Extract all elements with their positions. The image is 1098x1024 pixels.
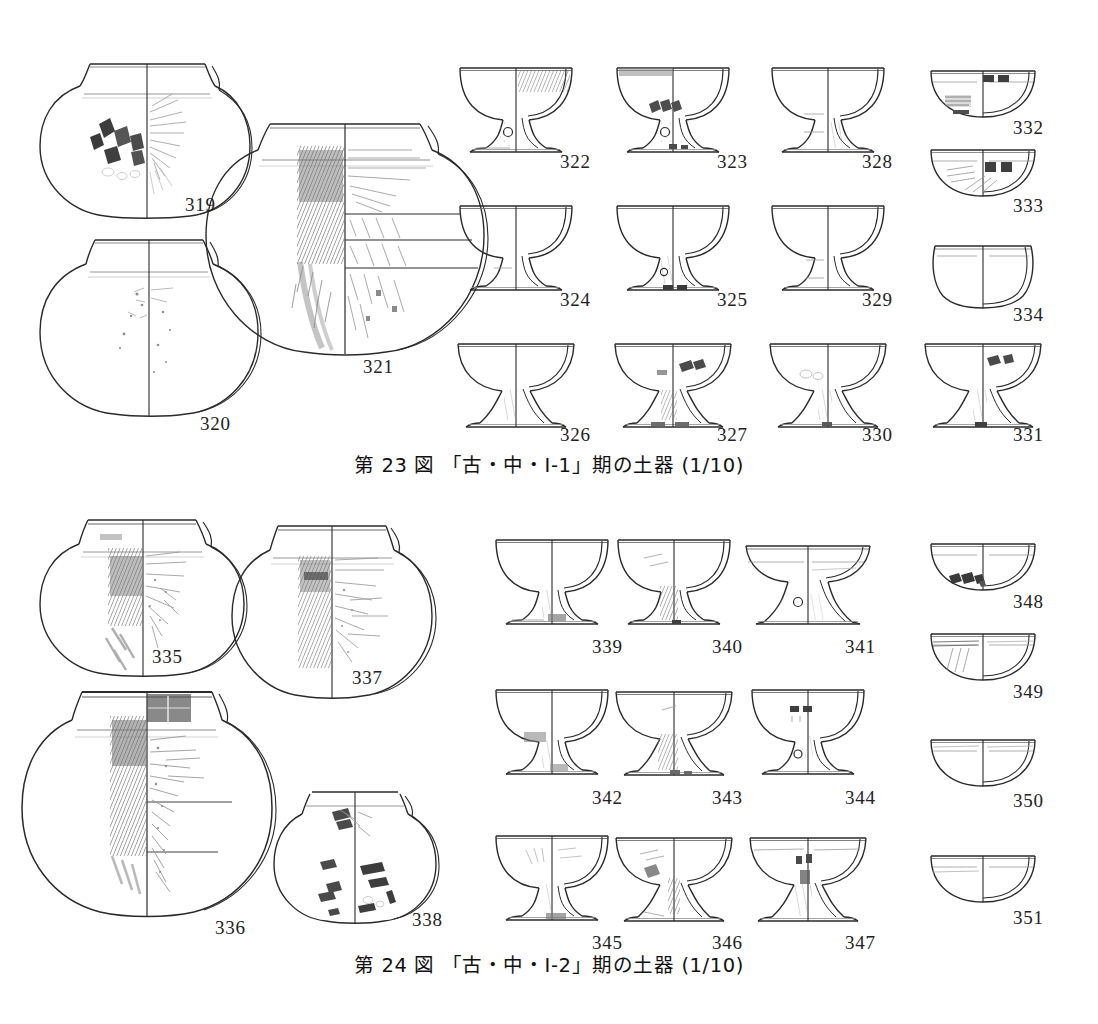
vessel-328: [772, 68, 884, 152]
figure-caption-23: 第 23 図 「古・中・I-1」期の土器 (1/10): [0, 449, 1098, 478]
vessel-321: [206, 124, 488, 355]
vessel-345: [496, 836, 608, 920]
vessel-337: [232, 526, 436, 698]
pottery-plate-figure: [0, 0, 1098, 1024]
vessel-number-351: 351: [1013, 908, 1044, 927]
vessel-336: [22, 692, 276, 917]
vessel-number-322: 322: [560, 152, 591, 171]
vessel-number-320: 320: [200, 414, 231, 433]
vessel-332: [931, 71, 1035, 117]
vessel-number-336: 336: [215, 918, 246, 937]
vessel-number-335: 335: [152, 647, 183, 666]
vessel-326: [458, 344, 574, 427]
vessel-number-327: 327: [717, 425, 748, 444]
vessel-349: [931, 634, 1035, 680]
vessel-number-342: 342: [592, 788, 623, 807]
plate-23-group: [40, 64, 1041, 427]
vessel-331: [925, 344, 1041, 427]
vessel-339: [496, 540, 608, 624]
figure-caption-24: 第 24 図 「古・中・I-2」期の土器 (1/10): [0, 949, 1098, 978]
vessel-number-331: 331: [1013, 425, 1044, 444]
vessel-number-328: 328: [862, 152, 893, 171]
vessel-number-321: 321: [363, 357, 394, 376]
vessel-319: [40, 64, 252, 218]
vessel-number-341: 341: [845, 637, 876, 656]
vessel-number-319: 319: [185, 195, 216, 214]
vessel-number-339: 339: [592, 637, 623, 656]
vessel-346: [616, 838, 732, 921]
vessel-325: [617, 206, 729, 290]
vessel-number-324: 324: [560, 290, 591, 309]
vessel-348: [931, 544, 1035, 590]
vessel-351: [931, 856, 1035, 902]
vessel-323: [617, 68, 729, 152]
vessel-number-332: 332: [1013, 118, 1044, 137]
vessel-347: [750, 838, 866, 921]
vessel-number-330: 330: [862, 425, 893, 444]
vessel-327: [615, 344, 731, 427]
vessel-number-348: 348: [1013, 592, 1044, 611]
vessel-number-337: 337: [352, 668, 383, 687]
vessel-343: [616, 692, 732, 775]
vessel-number-344: 344: [845, 788, 876, 807]
vessel-number-325: 325: [717, 290, 748, 309]
vessel-340: [618, 540, 730, 624]
vessel-number-349: 349: [1013, 682, 1044, 701]
plate-24-group: [22, 520, 1035, 923]
vessel-329: [772, 206, 884, 290]
vessel-333: [931, 150, 1035, 196]
vessel-341: [746, 546, 870, 624]
vessel-number-333: 333: [1013, 196, 1044, 215]
vessel-342: [496, 690, 608, 774]
vessel-number-343: 343: [712, 788, 743, 807]
vessel-320: [40, 240, 261, 416]
vessel-number-334: 334: [1013, 305, 1044, 324]
vessel-number-326: 326: [560, 425, 591, 444]
vessel-number-323: 323: [717, 152, 748, 171]
vessel-number-329: 329: [862, 290, 893, 309]
vessel-number-340: 340: [712, 637, 743, 656]
vessel-number-338: 338: [412, 910, 443, 929]
vessel-335: [40, 520, 247, 676]
vessel-322: [460, 68, 572, 152]
vessel-334: [933, 246, 1033, 308]
vessel-344: [752, 690, 864, 774]
vessel-330: [770, 344, 886, 427]
vessel-338: [274, 792, 439, 923]
vessel-350: [931, 740, 1035, 786]
vessel-number-350: 350: [1013, 791, 1044, 810]
